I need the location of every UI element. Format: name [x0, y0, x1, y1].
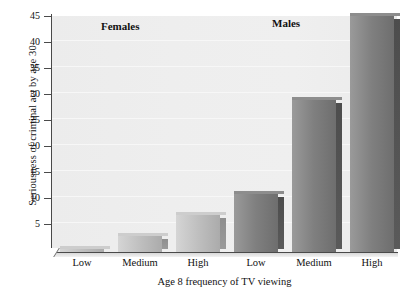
y-axis-line	[51, 14, 52, 254]
y-tick-label: 10	[0, 193, 40, 203]
bar-front-face	[234, 194, 278, 252]
bar-side-face	[336, 103, 342, 249]
y-tick	[44, 198, 52, 199]
bar-males-medium	[292, 100, 336, 252]
x-tick-label-males-high: High	[342, 257, 402, 268]
bar-side-face	[394, 19, 400, 249]
gridline	[52, 170, 397, 171]
y-tick	[44, 42, 52, 43]
group-heading-males: Males	[272, 17, 300, 29]
plot-area	[52, 16, 397, 252]
x-tick-label-males-medium: Medium	[282, 257, 346, 268]
y-tick-label: 40	[0, 37, 40, 47]
gridline	[52, 118, 397, 119]
y-tick	[44, 68, 52, 69]
x-tick-label-males-low: Low	[226, 257, 286, 268]
y-tick	[44, 120, 52, 121]
x-tick-label-females-medium: Medium	[108, 257, 172, 268]
gridline	[52, 196, 397, 197]
y-tick	[44, 224, 52, 225]
bar-front-face	[176, 215, 220, 252]
bar-front-face	[350, 16, 394, 252]
bar-males-low	[234, 194, 278, 252]
y-tick-label: 35	[0, 63, 40, 73]
bar-front-face	[118, 236, 162, 252]
bar-females-medium	[118, 236, 162, 252]
bar-chart: Seriousness of criminal act by age 30	[0, 0, 409, 297]
y-tick-label: 30	[0, 89, 40, 99]
y-tick-label: 5	[0, 219, 40, 229]
gridline	[52, 66, 397, 67]
gridline	[52, 144, 397, 145]
y-tick	[44, 94, 52, 95]
y-tick	[44, 172, 52, 173]
gridline	[52, 40, 397, 41]
y-tick-label: 15	[0, 167, 40, 177]
bar-side-face	[278, 197, 284, 249]
x-axis-title: Age 8 frequency of TV viewing	[52, 276, 397, 287]
y-tick	[44, 16, 52, 17]
bar-front-face	[292, 100, 336, 252]
x-tick-label-females-high: High	[168, 257, 228, 268]
y-tick-label: 25	[0, 115, 40, 125]
x-tick-label-females-low: Low	[52, 257, 112, 268]
bar-females-high	[176, 215, 220, 252]
bar-males-high	[350, 16, 394, 252]
gridline	[52, 92, 397, 93]
group-heading-females: Females	[101, 20, 139, 32]
bar-side-face	[220, 218, 226, 249]
bar-side-face	[162, 239, 168, 249]
y-tick-label: 20	[0, 141, 40, 151]
y-tick-label: 45	[0, 11, 40, 21]
y-tick	[44, 146, 52, 147]
